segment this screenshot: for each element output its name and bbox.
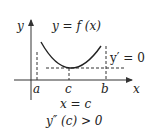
minimum-diagram: y y = f (x) y′ = 0 a c b x x = c y″ (c) …	[0, 0, 149, 134]
point-label-b: b	[101, 82, 109, 96]
point-label-a: a	[33, 82, 40, 96]
function-label: y = f (x)	[51, 19, 101, 33]
y-axis-label: y	[16, 19, 24, 33]
condition-x-equals-c: x = c	[60, 97, 91, 111]
condition-second-derivative: y″ (c) > 0	[45, 114, 103, 128]
point-label-c: c	[65, 82, 72, 96]
function-curve	[41, 42, 101, 68]
tangent-label: y′ = 0	[109, 51, 145, 65]
x-axis-label: x	[133, 82, 140, 96]
